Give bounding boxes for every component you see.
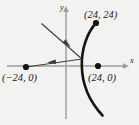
point-vertex-right-dot — [95, 63, 101, 69]
point-curve-top-dot — [93, 20, 99, 26]
y-axis-label: y — [60, 3, 64, 12]
figure-canvas — [0, 0, 139, 125]
point-label-focus-left: (−24, 0) — [2, 73, 37, 84]
figure-background — [0, 0, 139, 125]
point-focus-left-dot — [23, 64, 29, 70]
math-figure: (−24, 0) (24, 0) (24, 24) y x — [0, 0, 139, 125]
x-axis-label: x — [130, 56, 134, 65]
point-label-vertex-right: (24, 0) — [88, 73, 116, 84]
point-label-curve-top: (24, 24) — [84, 10, 117, 21]
